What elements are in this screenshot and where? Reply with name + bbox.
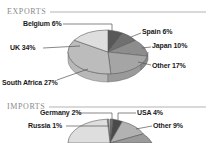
leader-spain <box>131 33 141 37</box>
label-uk: UK 34% <box>10 44 35 51</box>
label-south-africa: South Africa 27% <box>2 79 58 86</box>
exports-pie-slices <box>68 30 147 74</box>
imports-pie-slices <box>68 119 152 143</box>
label-japan: Japan 10% <box>152 42 187 49</box>
exports-section: EXPORTS <box>0 0 210 95</box>
leader-other-imports <box>136 126 152 129</box>
slice-imports-left-rest <box>68 119 110 143</box>
label-belgium: Belgium 6% <box>23 20 62 27</box>
label-other-exports: Other 17% <box>152 62 186 69</box>
imports-section: IMPORTS <box>0 95 210 143</box>
leader-usa <box>118 113 136 121</box>
imports-pie-chart <box>0 95 210 143</box>
label-russia: Russia 1% <box>28 122 62 129</box>
label-other-imports: Other 9% <box>153 122 183 129</box>
label-usa: USA 4% <box>137 109 163 116</box>
label-spain: Spain 6% <box>142 28 172 35</box>
imports-pie-svg <box>0 95 210 143</box>
label-germany: Germany 2% <box>40 109 81 116</box>
